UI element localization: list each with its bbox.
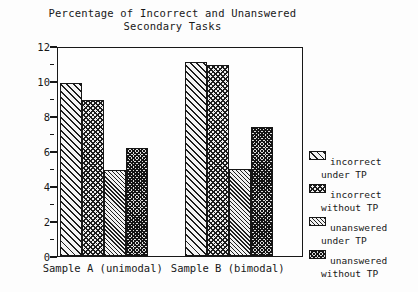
y-axis-tick-label: 8 xyxy=(44,112,50,123)
legend-swatch-icon xyxy=(309,184,326,193)
legend-item-4[interactable]: unansweredwithout TP xyxy=(309,249,417,279)
y-axis-minor-tick xyxy=(50,169,54,171)
bar-sampleB-series3 xyxy=(229,169,251,257)
y-axis-minor-tick xyxy=(50,204,54,206)
x-axis-group-label: Sample A (unimodal) xyxy=(42,262,164,274)
chart-title: Percentage of Incorrect and Unanswered S… xyxy=(40,7,305,33)
y-axis-major-tick xyxy=(50,221,57,223)
bar-sampleB-series4 xyxy=(251,127,273,257)
y-axis-tick-label: 12 xyxy=(37,42,50,53)
y-axis-major-tick xyxy=(50,256,57,258)
y-axis-tick-label: 6 xyxy=(44,147,50,158)
y-axis-minor-tick xyxy=(50,239,54,241)
y-axis-major-tick xyxy=(50,46,57,48)
y-axis-major-tick xyxy=(50,151,57,153)
y-axis-tick-label: 2 xyxy=(44,217,50,228)
legend-swatch-icon xyxy=(309,250,326,259)
chart-title-line-2: Secondary Tasks xyxy=(124,20,222,32)
bar-sampleB-series1 xyxy=(185,62,207,256)
plot-area xyxy=(57,47,303,257)
legend-item-2[interactable]: incorrectwithout TP xyxy=(309,183,417,213)
legend-swatch-icon xyxy=(309,217,326,226)
y-axis-tick-label: 0 xyxy=(44,252,50,263)
legend-item-3[interactable]: unansweredunder TP xyxy=(309,216,417,246)
y-axis-major-tick xyxy=(50,186,57,188)
legend-swatch-icon xyxy=(309,151,326,160)
bar-sampleA-series4 xyxy=(126,148,148,257)
y-axis-major-tick xyxy=(50,116,57,118)
bar-sampleA-series3 xyxy=(104,170,126,256)
y-axis-minor-tick xyxy=(50,99,54,101)
chart-figure: Percentage of Incorrect and Unanswered S… xyxy=(0,0,418,292)
bar-sampleA-series2 xyxy=(82,100,104,256)
legend-item-1[interactable]: incorrectunder TP xyxy=(309,150,417,180)
chart-legend: incorrectunder TPincorrectwithout TPunan… xyxy=(309,150,417,282)
y-axis-minor-tick xyxy=(50,134,54,136)
y-axis-minor-tick xyxy=(50,64,54,66)
bar-sampleB-series2 xyxy=(207,65,229,256)
bar-sampleA-series1 xyxy=(60,83,82,256)
y-axis-major-tick xyxy=(50,81,57,83)
y-axis-tick-label: 10 xyxy=(37,77,50,88)
x-axis-group-label: Sample B (bimodal) xyxy=(167,262,289,274)
y-axis: 024681012 xyxy=(0,0,57,292)
chart-title-line-1: Percentage of Incorrect and Unanswered xyxy=(49,7,297,19)
y-axis-tick-label: 4 xyxy=(44,182,50,193)
